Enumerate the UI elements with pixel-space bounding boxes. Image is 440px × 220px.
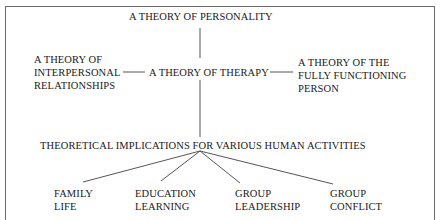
- connector-education: [161, 151, 200, 181]
- node-family-life: FAMILY LIFE: [54, 187, 93, 213]
- node-ff-line3: PERSON: [298, 82, 406, 95]
- node-ff-line2: FULLY FUNCTIONING: [298, 69, 406, 82]
- node-therapy: A THEORY OF THERAPY: [149, 66, 269, 79]
- education-line1: EDUCATION: [135, 187, 196, 200]
- node-fully-functioning: A THEORY OF THE FULLY FUNCTIONING PERSON: [298, 56, 406, 95]
- family-line1: FAMILY: [54, 187, 93, 200]
- node-interpersonal-line1: A THEORY OF: [34, 53, 120, 66]
- node-implications: THEORETICAL IMPLICATIONS FOR VARIOUS HUM…: [40, 139, 366, 152]
- education-line2: LEARNING: [135, 200, 196, 213]
- node-personality: A THEORY OF PERSONALITY: [129, 10, 273, 23]
- leadership-line2: LEADERSHIP: [235, 200, 300, 213]
- node-group-conflict: GROUP CONFLICT: [330, 187, 382, 213]
- node-group-leadership: GROUP LEADERSHIP: [235, 187, 300, 213]
- conflict-line2: CONFLICT: [330, 200, 382, 213]
- node-interpersonal: A THEORY OF INTERPERSONAL RELATIONSHIPS: [34, 53, 120, 92]
- conflict-line1: GROUP: [330, 187, 382, 200]
- leadership-line1: GROUP: [235, 187, 300, 200]
- node-ff-line1: A THEORY OF THE: [298, 56, 406, 69]
- family-line2: LIFE: [54, 200, 93, 213]
- node-interpersonal-line3: RELATIONSHIPS: [34, 79, 120, 92]
- node-interpersonal-line2: INTERPERSONAL: [34, 66, 120, 79]
- connector-family: [83, 151, 200, 182]
- node-education-learning: EDUCATION LEARNING: [135, 187, 196, 213]
